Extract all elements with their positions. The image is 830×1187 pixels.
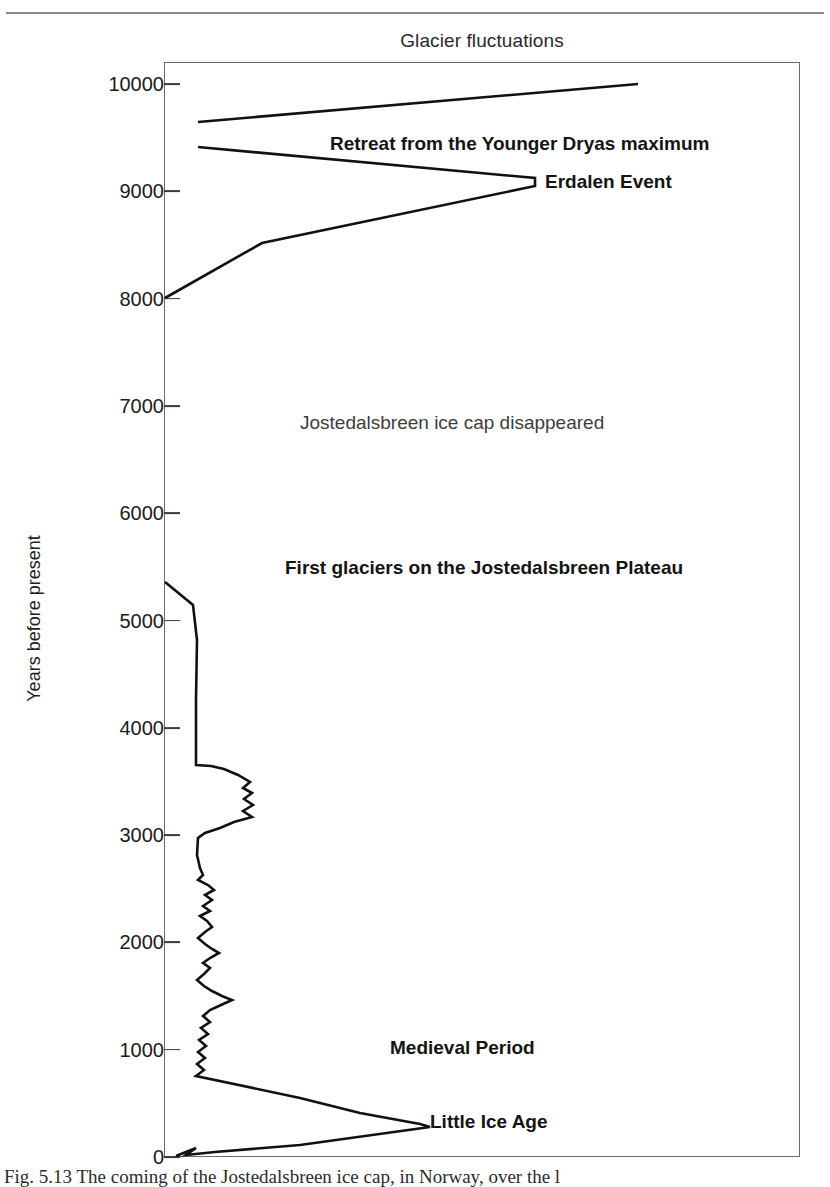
annotation-label: Little Ice Age: [430, 1111, 548, 1133]
annotation-label: Medieval Period: [390, 1037, 535, 1059]
annotation-label: Jostedalsbreen ice cap disappeared: [300, 412, 604, 434]
figure-glacier-fluctuations: Glacier fluctuations Years before presen…: [0, 0, 830, 1187]
curve-neoglacial-oscillations: [165, 582, 430, 1156]
annotation-label: Erdalen Event: [545, 171, 672, 193]
annotation-label: First glaciers on the Jostedalsbreen Pla…: [285, 557, 683, 579]
curve-younger-dryas-retreat: [198, 84, 638, 122]
glacier-curve-group: [0, 0, 830, 1187]
figure-caption: Fig. 5.13 The coming of the Jostedalsbre…: [4, 1166, 830, 1187]
curve-erdalen-event: [165, 147, 535, 298]
annotation-label: Retreat from the Younger Dryas maximum: [330, 133, 709, 155]
